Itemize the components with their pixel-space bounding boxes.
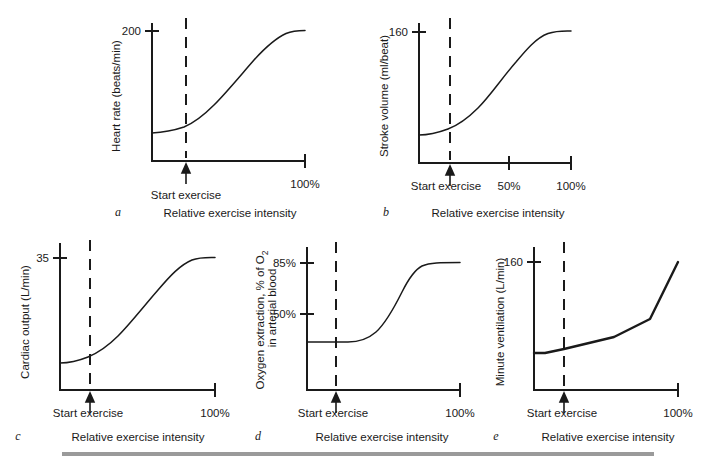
panel-a-axes bbox=[152, 24, 305, 161]
panel-a-ytick-label: 200 bbox=[122, 25, 141, 37]
panel-e-minute-ventilation: 160 100% Start exercise Minute ventilati… bbox=[488, 236, 715, 446]
panel-b-axes bbox=[419, 24, 571, 163]
panel-d-oxygen-extraction: 85% 50% 100% Start exercise Oxygen extra… bbox=[248, 236, 498, 446]
panel-a-ylabel: Heart rate (beats/min) bbox=[110, 40, 122, 152]
panel-b-xlabel: Relative exercise intensity bbox=[432, 207, 565, 219]
panel-c-curve bbox=[60, 257, 215, 363]
panel-b-ylabel: Stroke volume (ml/beat) bbox=[378, 35, 390, 157]
panel-e-ytick-label: 160 bbox=[504, 256, 523, 268]
panel-b-xtick-label-100: 100% bbox=[556, 180, 585, 192]
panel-d-curve bbox=[307, 263, 460, 343]
panel-e-xlabel: Relative exercise intensity bbox=[542, 431, 675, 443]
panel-e-letter: e bbox=[493, 429, 499, 443]
panel-c-svg: 35 100% Start exercise Cardiac output (L… bbox=[8, 236, 248, 446]
panel-a-xtick-label-100: 100% bbox=[290, 178, 319, 190]
panel-a-curve bbox=[152, 31, 305, 134]
panel-e-ylabel: Minute ventilation (L/min) bbox=[494, 258, 506, 387]
panel-e-xtick-label-100: 100% bbox=[663, 407, 692, 419]
panel-e-svg: 160 100% Start exercise Minute ventilati… bbox=[488, 236, 715, 446]
panel-b-svg: 160 50% 100% Start exercise Stroke volum… bbox=[368, 8, 638, 223]
panel-b-letter: b bbox=[383, 205, 389, 219]
panel-d-start-label: Start exercise bbox=[298, 407, 368, 419]
panel-c-ylabel: Cardiac output (L/min) bbox=[19, 265, 31, 379]
panel-b-curve bbox=[419, 31, 571, 135]
panel-e-start-label: Start exercise bbox=[527, 407, 597, 419]
panel-a-start-label: Start exercise bbox=[151, 189, 221, 201]
panel-d-axes bbox=[307, 248, 460, 390]
panel-c-cardiac-output: 35 100% Start exercise Cardiac output (L… bbox=[8, 236, 248, 446]
panel-b-start-label: Start exercise bbox=[411, 180, 481, 192]
panel-a-start-arrow-icon bbox=[182, 164, 190, 184]
panel-c-ytick-label: 35 bbox=[36, 252, 49, 264]
panel-b-xtick-label-50: 50% bbox=[497, 180, 520, 192]
panel-e-curve bbox=[534, 262, 678, 353]
exercise-physiology-figure: 200 100% Start exercise Heart rate (beat… bbox=[0, 0, 715, 464]
panel-b-stroke-volume: 160 50% 100% Start exercise Stroke volum… bbox=[368, 8, 638, 223]
panel-d-xtick-label-100: 100% bbox=[445, 407, 474, 419]
panel-c-start-label: Start exercise bbox=[53, 407, 123, 419]
panel-c-xtick-label-100: 100% bbox=[200, 407, 229, 419]
panel-d-ytick-label-85: 85% bbox=[273, 257, 296, 269]
panel-c-axes bbox=[60, 244, 215, 390]
panel-c-xlabel: Relative exercise intensity bbox=[72, 431, 205, 443]
panel-b-ytick-label: 160 bbox=[389, 26, 408, 38]
footer-divider-rule bbox=[62, 452, 654, 456]
panel-a-svg: 200 100% Start exercise Heart rate (beat… bbox=[100, 8, 360, 223]
panel-d-svg: 85% 50% 100% Start exercise Oxygen extra… bbox=[248, 236, 498, 446]
panel-d-letter: d bbox=[255, 429, 262, 443]
panel-e-axes bbox=[534, 248, 678, 390]
panel-c-letter: c bbox=[15, 429, 21, 443]
panel-a-heart-rate: 200 100% Start exercise Heart rate (beat… bbox=[100, 8, 360, 223]
panel-d-ylabel-line2: in arterial blood bbox=[266, 269, 278, 348]
panel-a-letter: a bbox=[115, 205, 121, 219]
panel-a-xlabel: Relative exercise intensity bbox=[164, 207, 297, 219]
panel-d-xlabel: Relative exercise intensity bbox=[316, 431, 449, 443]
